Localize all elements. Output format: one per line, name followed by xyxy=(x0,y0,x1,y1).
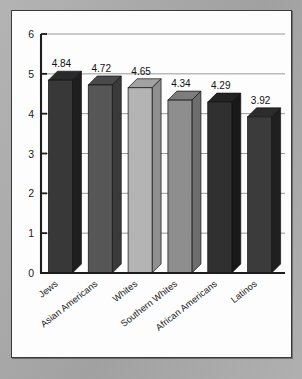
bars-group xyxy=(48,71,280,273)
bar-side-face xyxy=(152,79,161,273)
x-axis-category-labels: JewsAsian AmericansWhitesSouthern Whites… xyxy=(37,278,259,332)
y-axis-tick-label: 3 xyxy=(28,148,34,160)
bar-front-face xyxy=(248,117,272,273)
category-label: Whites xyxy=(111,278,140,304)
y-axis-tick-label: 6 xyxy=(28,28,34,40)
bar-value-label: 4.29 xyxy=(211,80,231,91)
bar-chart: 0123456 4.844.724.654.344.293.92 JewsAsi… xyxy=(12,11,293,359)
bar xyxy=(248,108,281,273)
y-axis-tick-labels: 0123456 xyxy=(28,28,34,279)
y-axis-tick-label: 0 xyxy=(28,267,34,279)
chart-canvas: 0123456 4.844.724.654.344.293.92 JewsAsi… xyxy=(12,11,293,359)
bar xyxy=(208,93,241,273)
y-axis-tick-label: 2 xyxy=(28,187,34,199)
category-label: Latinos xyxy=(229,278,259,305)
bar-value-label: 4.72 xyxy=(92,63,112,74)
bar-value-label: 4.84 xyxy=(52,58,72,69)
bar-side-face xyxy=(192,91,201,273)
bar-front-face xyxy=(88,85,112,273)
category-label: Jews xyxy=(37,278,60,299)
bar-front-face xyxy=(48,80,72,273)
chart-panel: 0123456 4.844.724.654.344.293.92 JewsAsi… xyxy=(11,10,292,358)
bar-front-face xyxy=(168,100,192,273)
bar-value-label: 4.34 xyxy=(171,78,191,89)
bar-value-label: 4.65 xyxy=(131,66,151,77)
bar-side-face xyxy=(72,71,81,273)
bar-value-label: 3.92 xyxy=(251,95,271,106)
y-axis-tick-label: 5 xyxy=(28,68,34,80)
bar-side-face xyxy=(232,93,241,273)
y-axis-tick-label: 4 xyxy=(28,108,34,120)
bar-front-face xyxy=(128,88,152,273)
y-axis-tick-label: 1 xyxy=(28,227,34,239)
bar-side-face xyxy=(112,76,121,273)
bar xyxy=(128,79,161,273)
bar xyxy=(48,71,81,273)
bar xyxy=(88,76,121,273)
bar xyxy=(168,91,201,273)
y-axis xyxy=(41,34,47,273)
bar-side-face xyxy=(272,108,281,273)
bar-front-face xyxy=(208,102,232,273)
